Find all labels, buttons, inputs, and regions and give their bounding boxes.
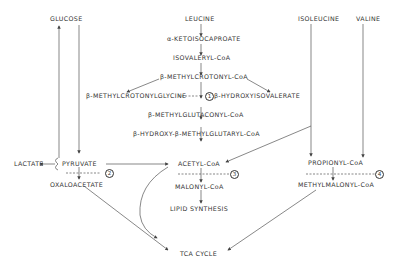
node-methylmalonyl-coa: METHYLMALONYL-CoA (298, 181, 374, 189)
node-methylcrotonylglycine: β-METHYLCROTONYLGLYCINE (86, 92, 186, 100)
node-tca-cycle: TCA CYCLE (180, 250, 217, 258)
block-marker-4: 4 (375, 170, 384, 179)
node-isoleucine: ISOLEUCINE (298, 15, 339, 23)
node-pyruvate: PYRUVATE (62, 160, 97, 168)
block-marker-1: 1 (205, 92, 214, 101)
node-methylglutaconyl-coa: β-METHYLGLUTACONYL-CoA (148, 111, 244, 119)
node-methylcrotonyl-coa: β-METHYLCROTONYL-CoA (160, 73, 248, 81)
node-valine: VALINE (356, 15, 380, 23)
block-marker-2: 2 (105, 169, 114, 178)
node-leucine: LEUCINE (185, 15, 215, 23)
node-hydroxyisovalerate: β-HYDROXYISOVALERATE (214, 92, 300, 100)
node-acetyl-coa: ACETYL-CoA (178, 160, 220, 168)
node-lipid-synthesis: LIPID SYNTHESIS (170, 205, 228, 213)
metabolic-pathway-diagram: GLUCOSE LEUCINE α-KETOISOCAPROATE ISOVAL… (0, 0, 400, 267)
node-isovaleryl-coa: ISOVALERYL-CoA (173, 54, 230, 62)
node-glucose: GLUCOSE (50, 15, 82, 23)
block-marker-3: 3 (230, 170, 239, 179)
node-ketoisocaproate: α-KETOISOCAPROATE (167, 35, 240, 43)
node-oxaloacetate: OXALOACETATE (50, 181, 103, 189)
node-hmg-coa: β-HYDROXY-β-METHYLGLUTARYL-CoA (133, 130, 260, 138)
node-lactate: LACTATE (14, 160, 44, 168)
node-propionyl-coa: PROPIONYL-CoA (308, 159, 363, 167)
node-malonyl-coa: MALONYL-CoA (175, 183, 224, 191)
